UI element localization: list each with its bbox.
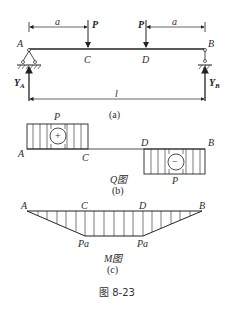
shear-point-c: C — [82, 152, 89, 163]
moment-diagram: A C D B Pa Pa M图 (c) — [20, 200, 205, 276]
beam-diagram: a a P P A C D B — [14, 16, 220, 121]
moment-point-d: D — [138, 200, 147, 211]
moment-point-b: B — [199, 200, 205, 211]
svg-text:−: − — [172, 156, 178, 167]
moment-value-d: Pa — [136, 238, 148, 249]
load-p-c-label: P — [92, 19, 99, 30]
moment-value-c: Pa — [77, 238, 89, 249]
load-p-d-label: P — [138, 19, 145, 30]
pin-support-icon — [17, 49, 41, 70]
point-c-label: C — [84, 54, 91, 65]
reaction-a-label: YA — [14, 77, 25, 90]
dimension-span-label: l — [115, 88, 118, 99]
shear-title: Q图 — [110, 174, 129, 185]
point-a-label: A — [16, 38, 24, 49]
shear-point-b: B — [208, 137, 214, 148]
moment-point-a: A — [20, 200, 28, 211]
shear-negative-value: P — [171, 175, 178, 186]
dimension-a-right-label: a — [172, 16, 177, 27]
figure-caption: 图 8-23 — [99, 287, 135, 298]
subfigure-a-label: (a) — [109, 109, 120, 121]
reaction-b-label: YB — [209, 77, 220, 90]
moment-point-c: C — [81, 200, 88, 211]
shear-diagram: P + − P A C D B Q图 (b) — [17, 111, 214, 197]
shear-positive-value: P — [53, 111, 60, 122]
point-d-label: D — [141, 54, 150, 65]
subfigure-c-label: (c) — [107, 264, 118, 276]
figure-8-23: a a P P A C D B — [0, 0, 227, 314]
shear-point-a: A — [17, 148, 25, 159]
roller-support-icon — [198, 49, 212, 70]
svg-text:+: + — [55, 130, 61, 141]
dimension-a-left-label: a — [55, 16, 60, 27]
shear-point-d: D — [140, 137, 149, 148]
subfigure-b-label: (b) — [112, 185, 124, 197]
point-b-label: B — [208, 38, 214, 49]
moment-title: M图 — [103, 253, 124, 264]
